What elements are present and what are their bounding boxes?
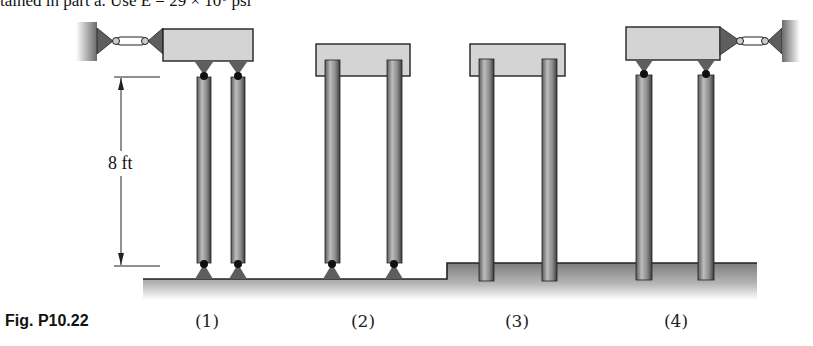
arrow-up-icon: [118, 78, 124, 90]
column: [387, 60, 402, 263]
case-label-2: (2): [351, 311, 375, 331]
case-label-3: (3): [505, 311, 529, 331]
case-label-1: (1): [195, 311, 219, 331]
column: [231, 77, 245, 263]
cap: [626, 27, 720, 60]
column: [636, 75, 652, 280]
cap: [163, 29, 253, 61]
figure-caption: Fig. P10.22: [5, 312, 89, 330]
column: [542, 59, 557, 281]
case-4-structure: [626, 20, 800, 280]
column: [479, 59, 494, 281]
case-1-structure: [76, 22, 253, 279]
case-2-structure: [316, 44, 410, 279]
column: [197, 77, 211, 263]
left-wall: [76, 22, 97, 61]
case-label-4: (4): [664, 311, 688, 331]
right-wall: [782, 20, 800, 62]
column: [325, 60, 340, 263]
arrow-down-icon: [118, 253, 124, 265]
column: [698, 75, 714, 280]
figure-stage: tained in part a. Use E = 29 × 10⁶ psi: [0, 0, 813, 346]
case-3-structure: [470, 44, 565, 281]
dimension-label: 8 ft: [108, 151, 133, 176]
ground: [143, 263, 757, 300]
cable-link: [117, 37, 145, 45]
